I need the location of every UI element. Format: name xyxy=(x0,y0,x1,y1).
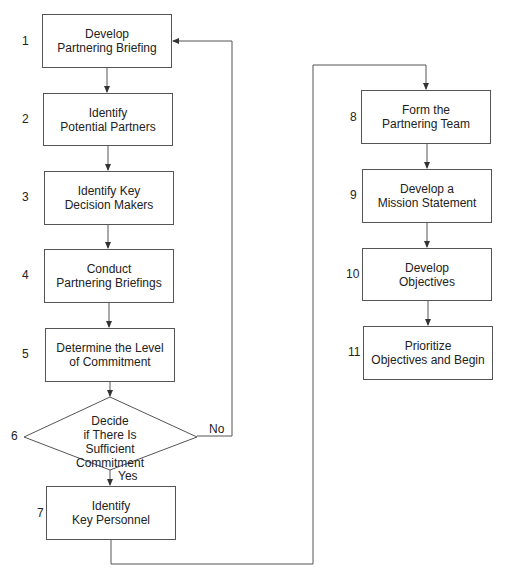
step-box-10: Develop Objectives xyxy=(362,248,492,301)
step-box-4: Conduct Partnering Briefings xyxy=(44,249,174,303)
step-number-3: 3 xyxy=(22,190,29,204)
step-number-10: 10 xyxy=(346,267,359,281)
step-9-line-2: Mission Statement xyxy=(378,196,477,210)
step-box-3: Identify Key Decision Makers xyxy=(44,171,174,225)
step-number-2: 2 xyxy=(22,112,29,126)
step-5-line-2: of Commitment xyxy=(69,355,150,369)
step-6-line-1: Decide xyxy=(91,414,128,428)
edge-label-yes: Yes xyxy=(118,469,138,483)
step-9-line-1: Develop a xyxy=(400,182,454,196)
step-number-9: 9 xyxy=(350,188,357,202)
step-number-5: 5 xyxy=(22,347,29,361)
step-1-line-1: Develop xyxy=(85,27,129,41)
step-8-line-1: Form the xyxy=(402,103,450,117)
step-4-line-1: Conduct xyxy=(87,262,132,276)
step-1-line-2: Partnering Briefing xyxy=(57,41,156,55)
step-6-line-2: if There Is xyxy=(83,428,136,442)
step-box-11: Prioritize Objectives and Begin xyxy=(363,326,493,380)
edge-label-no: No xyxy=(209,422,224,436)
step-box-8: Form the Partnering Team xyxy=(361,90,491,144)
step-number-4: 4 xyxy=(22,268,29,282)
step-10-line-1: Develop xyxy=(405,261,449,275)
step-number-7: 7 xyxy=(37,506,44,520)
step-box-5: Determine the Level of Commitment xyxy=(45,328,175,382)
step-box-7: Identify Key Personnel xyxy=(46,486,176,540)
decision-text: Decide if There Is Sufficient Commitment xyxy=(50,414,170,470)
step-11-line-1: Prioritize xyxy=(405,339,452,353)
step-10-line-2: Objectives xyxy=(399,275,455,289)
step-number-11: 11 xyxy=(348,345,360,359)
step-8-line-2: Partnering Team xyxy=(382,117,470,131)
step-number-8: 8 xyxy=(350,110,357,124)
step-number-1: 1 xyxy=(22,34,29,48)
step-box-9: Develop a Mission Statement xyxy=(362,169,492,223)
step-2-line-2: Potential Partners xyxy=(60,120,155,134)
step-4-line-2: Partnering Briefings xyxy=(56,276,161,290)
step-7-line-2: Key Personnel xyxy=(72,513,150,527)
step-box-2: Identify Potential Partners xyxy=(43,93,173,146)
step-11-line-2: Objectives and Begin xyxy=(371,353,484,367)
step-7-line-1: Identify xyxy=(92,499,131,513)
arrow-6-to-1-no xyxy=(173,41,232,436)
step-3-line-2: Decision Makers xyxy=(65,198,154,212)
step-6-line-3: Sufficient Commitment xyxy=(50,442,170,470)
step-5-line-1: Determine the Level xyxy=(56,341,163,355)
step-box-1: Develop Partnering Briefing xyxy=(42,14,172,68)
step-number-6: 6 xyxy=(11,429,18,443)
step-3-line-1: Identify Key xyxy=(78,184,141,198)
step-2-line-1: Identify xyxy=(89,106,128,120)
